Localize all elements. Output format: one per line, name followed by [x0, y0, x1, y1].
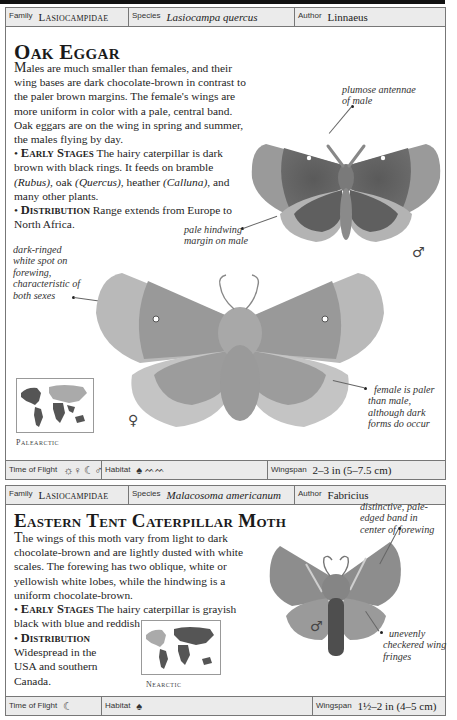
male-symbol: ♂ [412, 244, 425, 260]
male-symbol: ♂ [310, 618, 323, 634]
female-symbol: ♀ [128, 412, 138, 428]
range-map-nearctic [141, 620, 221, 675]
family-label: Family [9, 489, 33, 498]
habitat-cell: Habitat ♠ ᨓᨓ [102, 461, 268, 479]
female-moth-illustration [92, 263, 388, 433]
heath-icon: ᨓᨓ [145, 465, 165, 475]
habitat-label: Habitat [105, 701, 130, 710]
family-value: Lasiocampidae [39, 11, 109, 23]
entry-footer: Time of Flight ☼♀ ☾♂ Habitat ♠ ᨓᨓ Wingsp… [6, 460, 445, 479]
species-title: Eastern Tent Caterpillar Moth [14, 510, 286, 532]
wingspan-label: Wingspan [316, 701, 352, 710]
species-entry-eastern-tent-caterpillar-moth: Family Lasiocampidae Species Malacosoma … [5, 485, 446, 716]
wingspan-value: 2–3 in (5–7.5 cm) [313, 464, 392, 476]
early-stages-heading: Early Stages [21, 146, 94, 160]
species-description: Males are much smaller than females, and… [14, 61, 246, 231]
habitat-cell: Habitat ♠ [102, 697, 313, 715]
species-entry-oak-eggar: Family Lasiocampidae Species Lasiocampa … [5, 7, 446, 480]
author-label: Author [298, 11, 322, 20]
author-label: Author [298, 489, 322, 498]
species-value: Malacosoma americanum [166, 489, 281, 501]
annotation-dot [364, 387, 367, 390]
male-moth-illustration [246, 118, 446, 248]
species-value: Lasiocampa quercus [166, 11, 257, 23]
world-map-icon [17, 379, 93, 432]
wingspan-value: 1½–2 in (4–5 cm) [358, 700, 437, 712]
time-of-flight-cell: Time of Flight ☼♀ ☾♂ [6, 461, 102, 479]
entry-header: Family Lasiocampidae Species Lasiocampa … [6, 8, 445, 27]
author-value: Linnaeus [328, 11, 368, 23]
distribution-heading: Distribution [21, 631, 90, 645]
species-label: Species [132, 489, 160, 498]
annotation-hindwing: pale hindwing margin on male [184, 224, 266, 247]
annotation-fringes: unevenly checkered wing fringes [383, 628, 449, 662]
annotation-female: female is paler than male, although dark… [368, 384, 444, 430]
map-label: Palearctic [16, 438, 59, 447]
author-value: Fabricius [328, 489, 369, 501]
time-of-flight-cell: Time of Flight ☾ [6, 697, 102, 715]
time-of-flight-label: Time of Flight [9, 465, 57, 474]
wingspan-cell: Wingspan 1½–2 in (4–5 cm) [313, 697, 445, 715]
tree-icon: ♠ [136, 464, 142, 476]
species-description: The wings of this moth vary from light t… [14, 531, 260, 630]
range-map-palearctic [16, 378, 94, 433]
species-cell: Species Lasiocampa quercus [129, 8, 295, 26]
habitat-label: Habitat [105, 465, 130, 474]
annotation-band: distinctive, pale-edged band in center o… [360, 501, 444, 535]
family-value: Lasiocampidae [39, 489, 109, 501]
world-map-icon [142, 621, 220, 674]
top-rule [0, 0, 445, 4]
species-distribution: • Distribution Widespread in the USA and… [14, 631, 118, 688]
moon-icon: ☾ [63, 700, 73, 713]
wingspan-label: Wingspan [271, 465, 307, 474]
family-label: Family [9, 11, 33, 20]
family-cell: Family Lasiocampidae [6, 8, 129, 26]
map-label: Nearctic [146, 680, 181, 689]
annotation-spot: dark-ringed white spot on forewing, char… [13, 244, 83, 301]
annotation-dot [380, 631, 383, 634]
wingspan-cell: Wingspan 2–3 in (5–7.5 cm) [268, 461, 445, 479]
entry-footer: Time of Flight ☾ Habitat ♠ Wingspan 1½–2… [6, 696, 445, 715]
family-cell: Family Lasiocampidae [6, 486, 129, 504]
sun-female-moon-male-icon: ☼♀ ☾♂ [63, 464, 102, 477]
time-of-flight-label: Time of Flight [9, 701, 57, 710]
species-cell: Species Malacosoma americanum [129, 486, 295, 504]
annotation-antennae: plumose antennae of male [342, 84, 422, 107]
tree-icon: ♠ [136, 700, 142, 712]
distribution-heading: Distribution [21, 203, 90, 217]
early-stages-heading: Early Stages [21, 602, 94, 616]
species-label: Species [132, 11, 160, 20]
author-cell: Author Linnaeus [295, 8, 445, 26]
